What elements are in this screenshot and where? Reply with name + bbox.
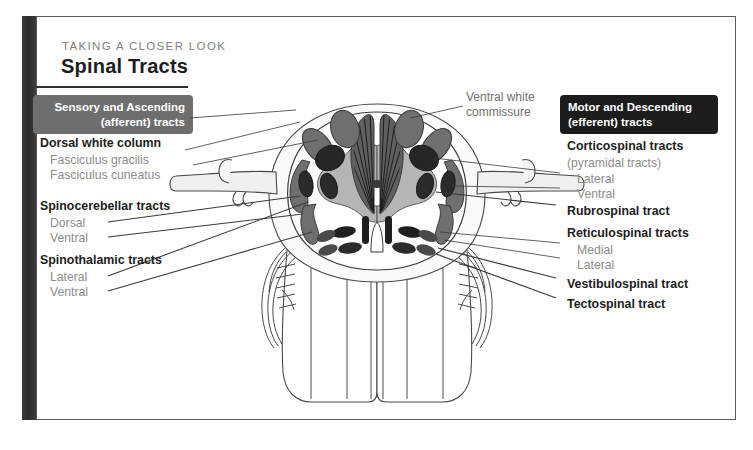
label-spinothalamic-tracts: Spinothalamic tracts (40, 253, 162, 267)
badge-motor-descending: Motor and Descending (efferent) tracts (560, 95, 718, 134)
label-corticospinal-ventral: Ventral (577, 187, 615, 201)
badge-sensory-ascending: Sensory and Ascending (afferent) tracts (33, 95, 193, 134)
badge-left-line2: (afferent) tracts (41, 115, 185, 130)
badge-left-line1: Sensory and Ascending (41, 100, 185, 115)
badge-right-line1: Motor and Descending (568, 100, 710, 115)
label-vestibulospinal-tract: Vestibulospinal tract (567, 277, 688, 291)
label-spinothalamic-lateral: Lateral (50, 270, 87, 284)
label-ventral-white-commissure-line1: Ventral white (466, 90, 535, 104)
label-corticospinal-lateral: Lateral (577, 172, 614, 186)
page: TAKING A CLOSER LOOK Spinal Tracts Senso… (0, 0, 753, 450)
label-fasciculus-gracilis: Fasciculus gracilis (50, 153, 149, 167)
label-reticulospinal-lateral: Lateral (577, 258, 614, 272)
label-spinothalamic-ventral: Ventral (50, 285, 88, 299)
badge-right-line2: (efferent) tracts (568, 115, 710, 130)
label-tectospinal-tract: Tectospinal tract (567, 297, 665, 311)
label-ventral-white-commissure-line2: commissure (466, 105, 531, 119)
label-reticulospinal-tracts: Reticulospinal tracts (567, 226, 689, 240)
label-spinocerebellar-ventral: Ventral (50, 231, 88, 245)
label-dorsal-white-column: Dorsal white column (40, 136, 161, 150)
page-title: Spinal Tracts (61, 55, 188, 78)
label-reticulospinal-medial: Medial (577, 243, 613, 257)
label-rubrospinal-tract: Rubrospinal tract (567, 204, 670, 218)
label-fasciculus-cuneatus: Fasciculus cuneatus (50, 168, 160, 182)
title-divider (36, 86, 188, 88)
label-spinocerebellar-dorsal: Dorsal (50, 216, 85, 230)
kicker-text: TAKING A CLOSER LOOK (62, 40, 226, 52)
label-corticospinal-tracts: Corticospinal tracts (567, 139, 683, 153)
label-pyramidal-tracts: (pyramidal tracts) (567, 156, 661, 170)
label-spinocerebellar-tracts: Spinocerebellar tracts (40, 199, 170, 213)
